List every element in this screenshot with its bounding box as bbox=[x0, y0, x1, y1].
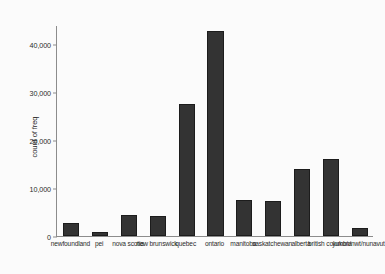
bar bbox=[352, 228, 368, 236]
y-axis-tick bbox=[53, 237, 57, 238]
x-axis-tick-label: new brunswick bbox=[136, 240, 177, 247]
x-axis-tick-labels: newfoundlandpeinova scotianew brunswickq… bbox=[56, 240, 373, 256]
bar bbox=[207, 31, 223, 236]
bar bbox=[236, 200, 252, 236]
x-axis-tick-label: yukon/nwt/nunavut bbox=[332, 240, 384, 247]
y-axis-tick-label: 10,000 bbox=[30, 185, 51, 194]
bar bbox=[179, 104, 195, 236]
x-axis-tick-label: ontario bbox=[205, 240, 224, 247]
bar bbox=[294, 169, 310, 236]
bar-chart-figure: count of freq 010,00020,00030,00040,000 … bbox=[0, 0, 385, 274]
x-axis-tick-label: saskatchewan bbox=[252, 240, 292, 247]
y-axis-tick-label: 30,000 bbox=[30, 89, 51, 98]
bar-series bbox=[57, 26, 373, 236]
x-axis-tick-label: quebec bbox=[175, 240, 196, 247]
bar bbox=[63, 223, 79, 236]
y-axis-tick-label: 20,000 bbox=[30, 137, 51, 146]
plot-area: 010,00020,00030,00040,000 bbox=[56, 26, 373, 237]
bar bbox=[150, 216, 166, 236]
bar bbox=[323, 159, 339, 236]
bar bbox=[121, 215, 137, 236]
x-axis-tick-label: newfoundland bbox=[51, 240, 90, 247]
y-axis-tick-label: 40,000 bbox=[30, 41, 51, 50]
bar bbox=[265, 201, 281, 236]
bar bbox=[92, 232, 108, 236]
x-axis-tick-label: pei bbox=[95, 240, 103, 247]
